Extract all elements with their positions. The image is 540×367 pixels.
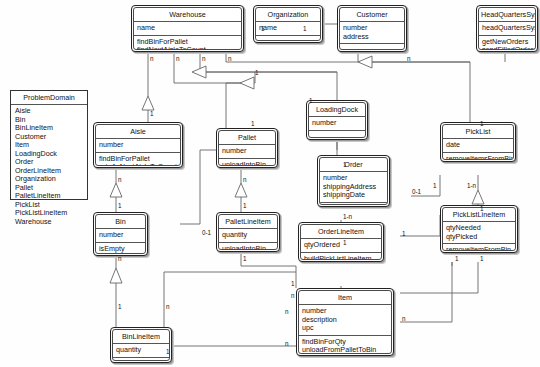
operation: sendFilledOrders	[482, 46, 532, 50]
package-class-item: Aisle	[15, 107, 83, 116]
multiplicity-label: 1	[118, 303, 122, 310]
class-name-customer: Customer	[340, 8, 404, 21]
attribute: number	[312, 119, 362, 128]
multiplicity-label: 1	[343, 161, 347, 168]
multiplicity-label: n	[285, 340, 289, 347]
operations-customer	[340, 44, 404, 50]
multiplicity-label: 1	[150, 110, 154, 117]
class-name-order: Order	[320, 158, 387, 171]
class-name-bin: Bin	[96, 215, 145, 228]
operations-picklistlineitem: removeItemFromBin	[443, 244, 515, 251]
package-class-list: Aisle Bin BinLineItem Customer Item Load…	[11, 105, 87, 228]
multiplicity-label: n	[407, 55, 411, 62]
class-name-palletlineitem: PalletLineItem	[219, 215, 277, 228]
attributes-picklistlineitem: qtyNeeded qtyPicked	[443, 222, 515, 244]
attributes-order: number shippingAddress shippingDate	[320, 172, 387, 203]
attributes-binlineitem: quantity	[113, 344, 169, 358]
multiplicity-label: 1	[480, 255, 484, 262]
multiplicity-label: 1	[243, 202, 247, 209]
class-picklist[interactable]: PickList date removeItemsFromBins	[440, 122, 516, 162]
attribute: name	[137, 24, 238, 33]
attribute: number	[99, 231, 142, 240]
multiplicity-label: n	[118, 255, 122, 262]
multiplicity-label: 1	[251, 120, 255, 127]
attribute: number	[99, 141, 177, 150]
attribute: qtyOrdered	[304, 241, 378, 250]
class-headquarterssys[interactable]: HeadQuartersSys headQuartersSysSI getNew…	[476, 5, 538, 52]
operations-aisle: findBinForPallet rateAsNextAisleToCount	[96, 153, 180, 166]
operations-pallet: unloadIntoBin	[219, 159, 275, 166]
class-organization[interactable]: Organization name	[253, 5, 323, 43]
multiplicity-label: n	[402, 315, 406, 322]
attribute: date	[446, 141, 510, 150]
operation: buildPickListLineItem	[304, 255, 378, 260]
class-customer[interactable]: Customer number address	[337, 5, 407, 52]
class-name-picklistlineitem: PickListLineItem	[443, 208, 515, 221]
attributes-bin: number	[96, 229, 145, 243]
attributes-organization: name	[256, 22, 320, 36]
package-class-item: Warehouse	[15, 218, 83, 227]
multiplicity-label: 1	[291, 280, 295, 287]
multiplicity-label: 1	[343, 239, 347, 246]
multiplicity-label: 1-n	[343, 213, 352, 220]
attributes-headquarterssys: headQuartersSysSI	[479, 22, 535, 36]
operations-picklist: removeItemsFromBins	[443, 153, 513, 160]
class-item[interactable]: Item number description upc findBinForQt…	[296, 288, 394, 356]
operations-order: buildPickList	[320, 203, 387, 205]
multiplicity-label: n	[291, 292, 295, 299]
class-name-item: Item	[299, 291, 391, 304]
class-bin[interactable]: Bin number isEmpty addItems	[93, 212, 148, 256]
class-name-organization: Organization	[256, 8, 320, 21]
class-loadingdock[interactable]: LoadingDock number	[306, 100, 368, 140]
operations-bin: isEmpty addItems	[96, 243, 145, 254]
class-picklistlineitem[interactable]: PickListLineItem qtyNeeded qtyPicked rem…	[440, 205, 518, 253]
class-name-headquarterssys: HeadQuartersSys	[479, 8, 535, 21]
attribute: description	[302, 316, 388, 325]
class-name-binlineitem: BinLineItem	[113, 330, 169, 343]
attributes-customer: number address	[340, 22, 404, 44]
operations-orderlineitem: buildPickListLineItem	[301, 253, 381, 260]
operation: removeItemsFromBins	[446, 155, 510, 160]
multiplicity-label: 1	[455, 255, 459, 262]
multiplicity-label: 1	[402, 230, 406, 237]
class-aisle[interactable]: Aisle number findBinForPallet rateAsNext…	[93, 122, 183, 168]
operations-item: findBinForQty unloadFromPalletToBin howM…	[299, 336, 391, 354]
attribute: number	[222, 147, 272, 156]
multiplicity-label: n	[202, 55, 206, 62]
attributes-palletlineitem: quantity	[219, 229, 277, 243]
class-order[interactable]: Order number shippingAddress shippingDat…	[317, 155, 390, 207]
class-warehouse[interactable]: Warehouse name findBinForPallet findNext…	[131, 5, 244, 52]
attribute: qtyPicked	[446, 233, 512, 242]
attribute: quantity	[116, 346, 166, 355]
class-name-orderlineitem: OrderLineItem	[301, 225, 381, 238]
class-orderlineitem[interactable]: OrderLineItem qtyOrdered buildPickListLi…	[298, 222, 384, 262]
attribute: shippingDate	[323, 191, 384, 200]
multiplicity-label: 1	[243, 255, 247, 262]
multiplicity-label: 1	[261, 25, 265, 32]
class-name-picklist: PickList	[443, 125, 513, 138]
class-name-warehouse: Warehouse	[134, 8, 241, 21]
multiplicity-label: 1	[480, 120, 484, 127]
multiplicity-label: n	[166, 303, 170, 310]
package-title-compartment: ProblemDomain	[11, 91, 87, 105]
attributes-pallet: number	[219, 145, 275, 159]
class-name-pallet: Pallet	[219, 131, 275, 144]
attribute: headQuartersSysSI	[482, 24, 532, 33]
operation: findNextAisleToCount	[137, 46, 238, 50]
operations-organization	[256, 36, 320, 41]
attribute: quantity	[222, 231, 274, 240]
multiplicity-label: 1	[166, 348, 170, 355]
class-pallet[interactable]: Pallet number unloadIntoBin	[216, 128, 278, 168]
operations-headquarterssys: getNewOrders sendFilledOrders	[479, 36, 535, 50]
multiplicity-label: 1	[118, 202, 122, 209]
operation: rateAsNextAisleToCount	[99, 163, 177, 166]
class-palletlineitem[interactable]: PalletLineItem quantity unloadIntoBin	[216, 212, 280, 252]
multiplicity-label: 0-1	[412, 188, 421, 195]
class-name-aisle: Aisle	[96, 125, 180, 138]
attributes-item: number description upc	[299, 305, 391, 336]
class-binlineitem[interactable]: BinLineItem quantity	[110, 327, 172, 363]
multiplicity-label: 1	[433, 182, 437, 189]
multiplicity-label: 0-1	[202, 229, 211, 236]
multiplicity-label: 1	[303, 25, 307, 32]
operations-warehouse: findBinForPallet findNextAisleToCount	[134, 36, 241, 50]
